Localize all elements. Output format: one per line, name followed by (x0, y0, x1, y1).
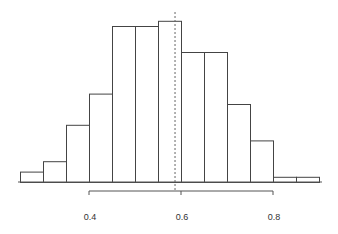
histogram-bars (21, 21, 320, 182)
histogram-bar (21, 172, 44, 182)
x-tick-label: 0.4 (84, 212, 97, 222)
histogram-bar (90, 94, 113, 182)
histogram-bar (136, 27, 159, 183)
x-tick-label: 0.8 (268, 212, 281, 222)
histogram-bar (228, 105, 251, 183)
histogram-chart: 0.40.60.8 (0, 0, 338, 234)
histogram-bar (113, 27, 136, 183)
x-axis: 0.40.60.8 (84, 191, 281, 222)
histogram-bar (205, 53, 228, 183)
histogram-bar (251, 141, 274, 183)
histogram-bar (159, 21, 182, 182)
x-tick-label: 0.6 (176, 212, 189, 222)
histogram-bar (182, 53, 205, 183)
histogram-bar (44, 162, 67, 183)
histogram-bar (67, 125, 90, 182)
